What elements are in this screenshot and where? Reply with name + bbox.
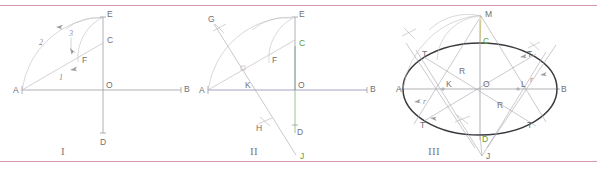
panel1-label-D: D <box>100 137 106 147</box>
panel3-label-D: D <box>482 134 488 144</box>
panel1-arrow-1 <box>70 67 78 72</box>
panel3-label-r-right: r <box>530 75 534 84</box>
panel2-label-E: E <box>299 9 305 19</box>
panel-2: A B O C D E F G H J K II <box>199 9 376 161</box>
panel3-arrow-cap-top <box>520 54 527 58</box>
panel2-label-C: C <box>299 38 305 48</box>
panel3-label-r-left: r <box>423 97 427 106</box>
panel2-label-G: G <box>208 14 215 24</box>
panel3-cross-bl-1 <box>455 116 470 122</box>
panel1-numeral: I <box>61 145 65 157</box>
panel2-segment-af <box>208 40 295 90</box>
panel1-step-3: 3 <box>68 29 73 38</box>
panel3-arrow-r-left <box>414 99 421 103</box>
panel1-arc-cap <box>66 18 103 29</box>
panel2-label-F: F <box>272 55 277 65</box>
figure-canvas: A B O C D E F 1 2 3 I <box>0 0 597 171</box>
panel3-arrow-cap-bottom <box>430 117 437 121</box>
panel1-label-O: O <box>106 80 113 90</box>
panel3-label-R-lower: R <box>497 100 503 110</box>
panel2-label-B: B <box>370 84 376 94</box>
panel1-step-2: 2 <box>39 38 43 47</box>
panel-1: A B O C D E F 1 2 3 I <box>13 9 190 157</box>
panel3-numeral: III <box>428 145 440 157</box>
figure-root: A B O C D E F 1 2 3 I <box>0 0 597 171</box>
panel3-label-J: J <box>486 151 490 161</box>
panel1-label-E: E <box>107 9 113 19</box>
panel-3: A B O C D M J K L T T T T r r R R III <box>396 9 567 161</box>
panel3-label-O: O <box>483 79 490 89</box>
panel3-label-T-lower-left: T <box>420 120 425 130</box>
panel3-label-T-lower-right: T <box>527 120 532 130</box>
panel3-label-A: A <box>396 84 402 94</box>
panel2-label-H: H <box>256 123 262 133</box>
panel2-label-O: O <box>298 80 305 90</box>
panel3-label-B: B <box>561 84 567 94</box>
panel2-label-A: A <box>199 85 205 95</box>
panel1-label-C: C <box>107 35 113 45</box>
panel2-label-J: J <box>300 151 304 161</box>
panel2-numeral: II <box>250 145 258 157</box>
panel1-label-B: B <box>184 84 190 94</box>
panel3-cross-ur-1 <box>528 42 540 48</box>
panel1-label-A: A <box>13 85 19 95</box>
panel3-arrow-r-right <box>540 72 547 76</box>
panel3-arc-small-top <box>437 16 481 60</box>
panel2-label-D: D <box>297 127 303 137</box>
panel3-label-T-upper-right: T <box>527 49 532 59</box>
panel3-ray-j-l <box>482 52 546 156</box>
panel3-label-R-upper: R <box>459 66 465 76</box>
panel3-cross-ul-2 <box>404 28 414 38</box>
panel3-bisector-right <box>487 45 556 148</box>
panel2-label-K: K <box>245 80 251 90</box>
panel3-cross-ul-1 <box>402 29 416 36</box>
panel2-bisector-gj <box>214 24 296 155</box>
panel3-label-T-upper-left: T <box>422 49 427 59</box>
panel3-bisector-left <box>406 43 475 148</box>
panel2-cross-g-2 <box>215 24 224 33</box>
panel3-ray-m-l <box>481 16 546 122</box>
panel1-step-1: 1 <box>59 73 63 82</box>
panel3-arc-top-left <box>403 15 481 89</box>
panel3-label-L: L <box>521 79 526 89</box>
panel3-label-M: M <box>485 9 492 19</box>
panel3-label-K: K <box>446 79 452 89</box>
panel3-label-C: C <box>483 36 489 46</box>
panel1-segment-ac <box>22 43 103 90</box>
panel1-label-F: F <box>82 55 87 65</box>
